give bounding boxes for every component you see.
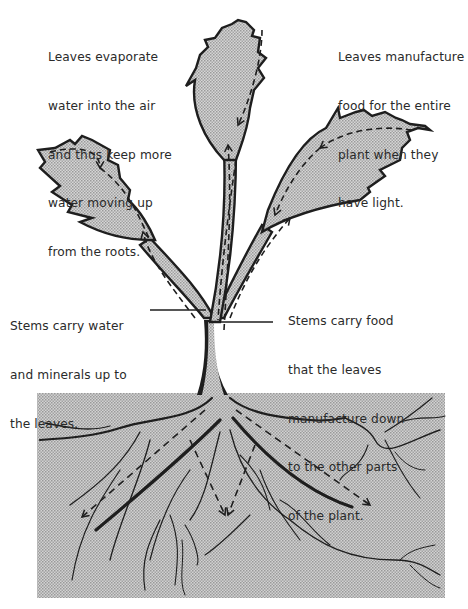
label-line: have light. bbox=[338, 195, 464, 211]
label-line: manufacture down bbox=[288, 411, 404, 427]
stem bbox=[197, 320, 228, 395]
label-line: the leaves. bbox=[10, 416, 127, 432]
label-line: water moving up bbox=[48, 195, 172, 211]
label-line: food for the entire bbox=[338, 98, 464, 114]
label-line: plant when they bbox=[338, 147, 464, 163]
label-line: water into the air bbox=[48, 98, 172, 114]
label-leaves-manufacture: Leaves manufacture food for the entire p… bbox=[338, 17, 464, 228]
label-stems-food: Stems carry food that the leaves manufac… bbox=[288, 281, 404, 540]
label-leaves-evaporate: Leaves evaporate water into the air and … bbox=[48, 17, 172, 276]
label-stems-water: Stems carry water and minerals up to the… bbox=[10, 286, 127, 448]
label-line: from the roots. bbox=[48, 244, 172, 260]
label-line: and thus keep more bbox=[48, 147, 172, 163]
label-line: Stems carry water bbox=[10, 318, 127, 334]
label-line: Leaves evaporate bbox=[48, 49, 172, 65]
label-line: to the other parts bbox=[288, 459, 404, 475]
label-line: and minerals up to bbox=[10, 367, 127, 383]
label-line: of the plant. bbox=[288, 508, 404, 524]
top-leaf bbox=[186, 20, 266, 160]
label-line: that the leaves bbox=[288, 362, 404, 378]
label-line: Leaves manufacture bbox=[338, 49, 464, 65]
label-line: Stems carry food bbox=[288, 313, 404, 329]
